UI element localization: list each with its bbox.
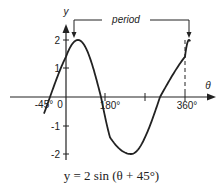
equation-caption: y = 2 sin (θ + 45°) bbox=[0, 168, 223, 184]
x-axis-label: θ bbox=[205, 80, 211, 91]
x-axis-arrow-icon bbox=[207, 94, 216, 101]
ytick-m1-label: -1 bbox=[51, 121, 60, 132]
ytick-1-label: 1 bbox=[54, 63, 60, 74]
ytick-m2-label: -2 bbox=[51, 149, 60, 160]
xtick-360-label: 360° bbox=[177, 100, 198, 111]
xtick-0-label: 0 bbox=[57, 99, 63, 110]
y-axis-arrow-icon bbox=[63, 24, 70, 33]
ytick-2-label: 2 bbox=[54, 35, 60, 46]
period-right-arrow-icon bbox=[187, 32, 192, 38]
period-left-arrow-icon bbox=[72, 32, 77, 38]
period-label: period bbox=[111, 14, 140, 25]
xtick-neg45-label: -45° bbox=[35, 99, 53, 110]
xtick-180-label: 180° bbox=[100, 100, 121, 111]
y-axis-label: y bbox=[63, 6, 70, 17]
sine-graph: period y θ 2 1 -1 -2 -45° 0 180° 360° bbox=[0, 0, 223, 190]
